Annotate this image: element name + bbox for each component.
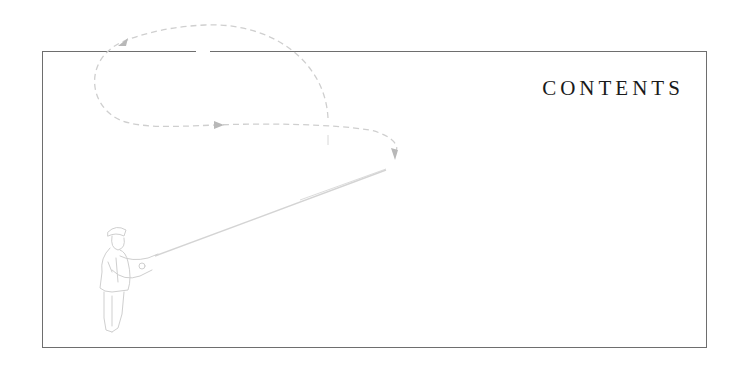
fly-cast-illustration bbox=[0, 0, 748, 370]
arrowhead-icon bbox=[391, 148, 398, 160]
fishing-rod bbox=[155, 170, 386, 256]
fisherman-figure bbox=[100, 227, 158, 332]
arrowhead-icon bbox=[118, 38, 128, 46]
arrowhead-icon bbox=[214, 121, 224, 129]
border-gap bbox=[196, 49, 210, 53]
casting-loop-path bbox=[95, 25, 397, 152]
fly-line bbox=[300, 169, 386, 200]
